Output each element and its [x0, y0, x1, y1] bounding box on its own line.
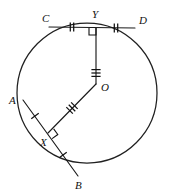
tick-ax	[31, 113, 38, 118]
point-label-d: D	[139, 15, 147, 26]
point-label-x: X	[40, 137, 47, 148]
tick-xb	[59, 152, 66, 157]
right-angle-x	[52, 129, 58, 139]
point-label-o: O	[101, 82, 109, 93]
point-label-c: C	[42, 13, 49, 24]
point-label-a: A	[9, 95, 16, 106]
point-label-b: B	[75, 180, 82, 191]
geometry-diagram: C D Y O A X B	[0, 0, 179, 194]
point-label-y: Y	[92, 9, 98, 20]
right-angle-y	[89, 28, 96, 35]
geometry-canvas	[0, 0, 179, 194]
